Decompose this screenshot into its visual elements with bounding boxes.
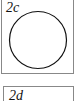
panel-label-2c: 2c	[6, 1, 19, 15]
panel-label-2d: 2d	[9, 89, 23, 101]
